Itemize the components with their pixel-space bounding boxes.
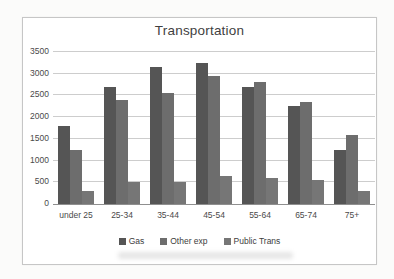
bar-group-55-64	[237, 52, 283, 204]
bar-group-under-25	[53, 52, 99, 204]
chart-title: Transportation	[23, 23, 376, 38]
y-tick-label-0: 0	[44, 199, 49, 208]
legend-swatch-public-trans	[224, 238, 231, 245]
bar-gas-25-34	[104, 87, 116, 204]
bar-public-trans-65-74	[312, 180, 324, 204]
x-axis-line	[53, 204, 375, 205]
chart-frame: Transportation 0500100015002000250030003…	[22, 17, 377, 265]
bar-other-exp-55-64	[254, 82, 266, 204]
bar-group-65-74	[283, 52, 329, 204]
bar-group-75	[329, 52, 375, 204]
bar-group-35-44	[145, 52, 191, 204]
x-tick-label-under-25: under 25	[53, 210, 99, 220]
bar-gas-65-74	[288, 106, 300, 204]
scan-artifact	[118, 252, 293, 259]
bar-gas-under-25	[58, 126, 70, 204]
bar-gas-45-54	[196, 63, 208, 204]
legend-item-gas: Gas	[119, 236, 145, 246]
plot-area	[53, 52, 375, 204]
legend: GasOther expPublic Trans	[23, 236, 376, 246]
bar-gas-55-64	[242, 87, 254, 204]
x-tick-label-55-64: 55-64	[237, 210, 283, 220]
legend-label-public-trans: Public Trans	[234, 236, 281, 246]
bar-other-exp-45-54	[208, 76, 220, 204]
bar-public-trans-25-34	[128, 182, 140, 204]
y-tick-label-1000: 1000	[30, 156, 49, 165]
y-tick-label-1500: 1500	[30, 134, 49, 143]
x-tick-label-25-34: 25-34	[99, 210, 145, 220]
bar-other-exp-25-34	[116, 100, 128, 204]
x-axis-labels: under 2525-3435-4445-5455-6465-7475+	[53, 210, 375, 220]
legend-label-other-exp: Other exp	[170, 236, 207, 246]
y-tick-label-2000: 2000	[30, 112, 49, 121]
bar-public-trans-under-25	[82, 191, 94, 204]
bar-other-exp-75	[346, 135, 358, 204]
x-tick-label-75: 75+	[329, 210, 375, 220]
bar-gas-75	[334, 150, 346, 204]
bar-other-exp-65-74	[300, 102, 312, 204]
legend-item-public-trans: Public Trans	[224, 236, 281, 246]
legend-swatch-gas	[119, 238, 126, 245]
scanned-page: Transportation 0500100015002000250030003…	[0, 0, 394, 279]
x-tick-label-35-44: 35-44	[145, 210, 191, 220]
bar-gas-35-44	[150, 67, 162, 204]
bar-public-trans-55-64	[266, 178, 278, 204]
y-tick-label-2500: 2500	[30, 90, 49, 99]
bar-public-trans-45-54	[220, 176, 232, 204]
y-tick-label-3500: 3500	[30, 47, 49, 56]
bar-public-trans-35-44	[174, 182, 186, 204]
bar-public-trans-75	[358, 191, 370, 204]
x-tick-label-45-54: 45-54	[191, 210, 237, 220]
bar-other-exp-35-44	[162, 93, 174, 204]
legend-swatch-other-exp	[160, 238, 167, 245]
y-tick-label-500: 500	[35, 177, 49, 186]
y-tick-label-3000: 3000	[30, 69, 49, 78]
y-axis-labels: 0500100015002000250030003500	[23, 52, 49, 204]
bar-group-25-34	[99, 52, 145, 204]
bar-groups	[53, 52, 375, 204]
x-tick-label-65-74: 65-74	[283, 210, 329, 220]
bar-other-exp-under-25	[70, 150, 82, 204]
legend-label-gas: Gas	[129, 236, 145, 246]
legend-item-other-exp: Other exp	[160, 236, 207, 246]
bar-group-45-54	[191, 52, 237, 204]
